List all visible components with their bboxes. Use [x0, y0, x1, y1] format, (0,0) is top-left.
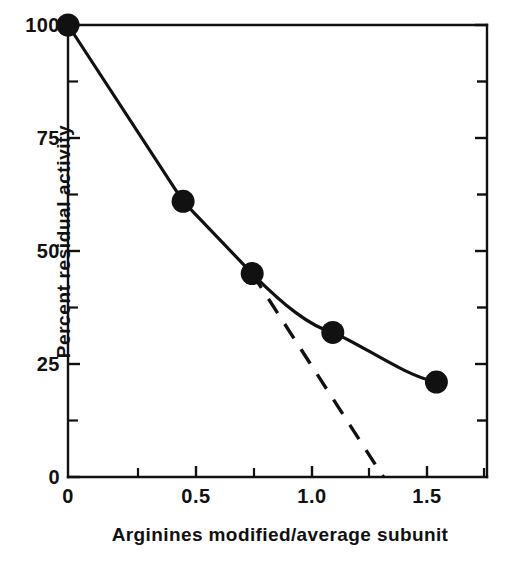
y-tick-label-75: 75 [0, 128, 60, 148]
y-axis-title: Percent residual activity [54, 82, 73, 402]
series-observed-solid-line [68, 25, 436, 382]
x-tick-label-1-5: 1.5 [397, 486, 457, 506]
data-point [425, 371, 448, 394]
x-axis-title: Arginines modified/average subunit [60, 525, 500, 544]
data-point-markers [57, 14, 448, 394]
x-axis-major-ticks [196, 466, 427, 477]
y-tick-label-50: 50 [0, 241, 60, 261]
figure-panel: 100 75 50 25 0 0 0.5 1.0 1.5 Arginines m… [0, 0, 511, 561]
data-point [321, 321, 344, 344]
y-tick-label-25: 25 [0, 354, 60, 374]
axis-frame [68, 25, 487, 477]
chart-plot-area [0, 0, 511, 561]
data-point [241, 262, 264, 285]
x-tick-label-0-5: 0.5 [166, 486, 226, 506]
x-tick-label-1-0: 1.0 [282, 486, 342, 506]
y-tick-label-0: 0 [0, 467, 60, 487]
x-tick-label-0: 0 [48, 486, 88, 506]
y-axis-right-ticks [475, 25, 487, 421]
series-extrapolated-dashed-line [252, 274, 383, 477]
data-point [172, 190, 195, 213]
y-tick-label-100: 100 [0, 15, 60, 35]
